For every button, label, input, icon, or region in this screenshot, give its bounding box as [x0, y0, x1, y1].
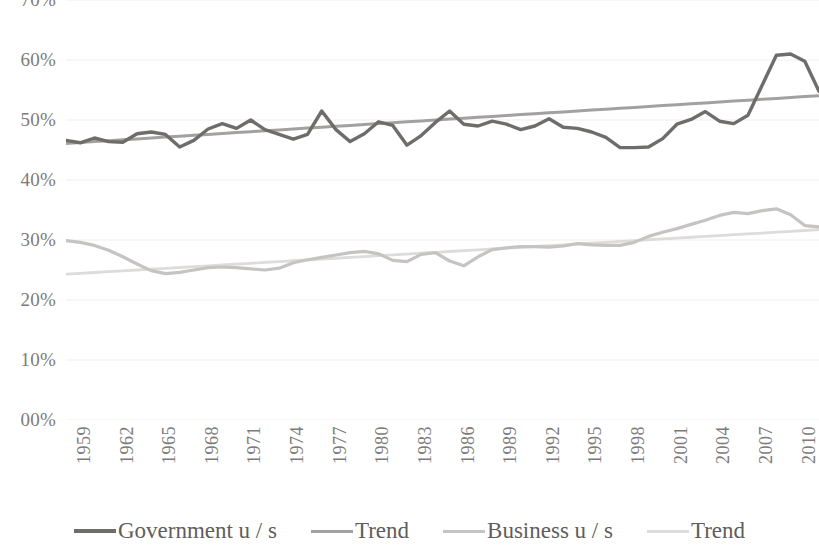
y-axis-tick-label: 20% — [0, 290, 56, 309]
x-axis-tick-label: 2007 — [757, 426, 775, 464]
legend-item-label: Trend — [691, 518, 745, 544]
x-axis-tick-label: 1998 — [629, 426, 647, 464]
x-axis-tick-label: 2010 — [800, 426, 818, 464]
x-axis-tick-label: 1971 — [245, 426, 263, 464]
y-axis: 70%60%50%40%30%20%10%00% — [0, 0, 62, 430]
legend-item[interactable]: Trend — [647, 518, 745, 544]
x-axis-tick-label: 1986 — [459, 426, 477, 464]
y-axis-tick-label: 40% — [0, 170, 56, 189]
legend-item[interactable]: Government u / s — [74, 518, 277, 544]
x-axis-tick-label: 2004 — [714, 426, 732, 464]
x-axis-tick-label: 1983 — [416, 426, 434, 464]
legend-line-swatch-icon — [311, 530, 353, 533]
legend-item[interactable]: Business u / s — [443, 518, 613, 544]
y-axis-tick-label: 60% — [0, 50, 56, 69]
chart-legend: Government u / sTrendBusiness u / sTrend — [0, 512, 819, 550]
legend-item[interactable]: Trend — [311, 518, 409, 544]
series-line-government-u-s — [66, 54, 819, 148]
x-axis-tick-label: 1989 — [501, 426, 519, 464]
x-axis: 1959196219651968197119741977198019831986… — [66, 420, 819, 510]
x-axis-tick-label: 1980 — [373, 426, 391, 464]
legend-line-swatch-icon — [74, 529, 116, 533]
y-axis-tick-label: 30% — [0, 230, 56, 249]
chart-canvas — [66, 0, 819, 420]
x-axis-tick-label: 1974 — [288, 426, 306, 464]
x-axis-tick-label: 1968 — [203, 426, 221, 464]
x-axis-tick-label: 1962 — [118, 426, 136, 464]
legend-item-label: Trend — [355, 518, 409, 544]
x-axis-tick-label: 1959 — [75, 426, 93, 464]
x-axis-tick-label: 1995 — [586, 426, 604, 464]
legend-item-label: Government u / s — [118, 518, 277, 544]
legend-line-swatch-icon — [443, 530, 485, 533]
legend-line-swatch-icon — [647, 530, 689, 533]
line-chart: 70%60%50%40%30%20%10%00% 195919621965196… — [0, 0, 819, 550]
x-axis-tick-label: 1965 — [160, 426, 178, 464]
plot-area — [66, 0, 819, 420]
series-line-trend — [66, 230, 819, 275]
y-axis-tick-label: 50% — [0, 110, 56, 129]
x-axis-tick-label: 1977 — [331, 426, 349, 464]
y-axis-tick-label: 70% — [0, 0, 56, 9]
series-line-business-u-s — [66, 209, 819, 274]
y-axis-tick-label: 00% — [0, 410, 56, 429]
y-axis-tick-label: 10% — [0, 350, 56, 369]
legend-item-label: Business u / s — [487, 518, 613, 544]
x-axis-tick-label: 1992 — [544, 426, 562, 464]
x-axis-tick-label: 2001 — [672, 426, 690, 464]
